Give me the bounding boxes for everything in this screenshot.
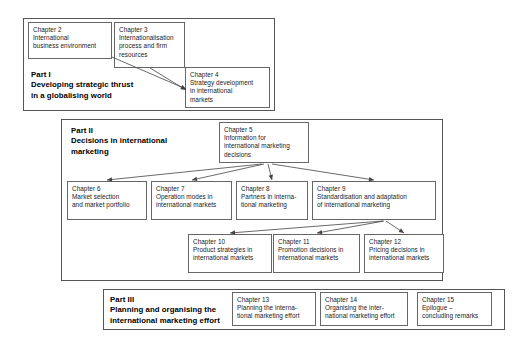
part-label-part-3: Part III Planning and organising the int… xyxy=(110,295,220,326)
chapter-box-chapter-15[interactable]: Chapter 15 Epilogue – concluding remarks xyxy=(417,292,492,326)
chapter-title-chapter-8: Partners in interna- tional marketing xyxy=(241,193,304,209)
chapter-number-chapter-2: Chapter 2 xyxy=(33,26,108,34)
chapter-box-chapter-13[interactable]: Chapter 13 Planning the interna- tional … xyxy=(232,292,316,326)
chapter-number-chapter-3: Chapter 3 xyxy=(119,26,181,34)
chapter-title-chapter-14: Organising the inter- national marketing… xyxy=(325,304,404,320)
chapter-title-chapter-6: Market selection and market portfolio xyxy=(72,193,143,209)
chapter-box-chapter-6[interactable]: Chapter 6 Market selection and market po… xyxy=(67,181,147,220)
chapter-box-chapter-4[interactable]: Chapter 4 Strategy development in intern… xyxy=(185,67,270,108)
chapter-number-chapter-5: Chapter 5 xyxy=(224,126,305,134)
chapter-title-chapter-9: Standardisation and adaptation of intern… xyxy=(317,193,432,209)
chapter-box-chapter-9[interactable]: Chapter 9 Standardisation and adaptation… xyxy=(312,181,436,220)
chapter-title-chapter-11: Promotion decisions in international mar… xyxy=(278,246,356,262)
chapter-title-chapter-7: Operation modes in international markets xyxy=(156,193,228,209)
chapter-number-chapter-9: Chapter 9 xyxy=(317,185,432,193)
chapter-title-chapter-13: Planning the interna- tional marketing e… xyxy=(237,304,312,320)
chapter-number-chapter-15: Chapter 15 xyxy=(422,296,488,304)
chapter-number-chapter-14: Chapter 14 xyxy=(325,296,404,304)
chapter-number-chapter-8: Chapter 8 xyxy=(241,185,304,193)
chapter-number-chapter-12: Chapter 12 xyxy=(369,238,440,246)
chapter-number-chapter-6: Chapter 6 xyxy=(72,185,143,193)
chapter-box-chapter-14[interactable]: Chapter 14 Organising the inter- nationa… xyxy=(320,292,408,326)
chapter-title-chapter-5: Information for international marketing … xyxy=(224,134,305,159)
chapter-box-chapter-11[interactable]: Chapter 11 Promotion decisions in intern… xyxy=(273,234,360,273)
chapter-number-chapter-11: Chapter 11 xyxy=(278,238,356,246)
chapter-box-chapter-7[interactable]: Chapter 7 Operation modes in internation… xyxy=(151,181,232,220)
chapter-number-chapter-10: Chapter 10 xyxy=(193,238,268,246)
part-label-part-1: Part I Developing strategic thrust in a … xyxy=(31,70,133,101)
chapter-box-chapter-5[interactable]: Chapter 5 Information for international … xyxy=(219,122,309,163)
chapter-box-chapter-8[interactable]: Chapter 8 Partners in interna- tional ma… xyxy=(236,181,308,220)
chapter-title-chapter-4: Strategy development in international ma… xyxy=(190,79,266,104)
chapter-title-chapter-3: Internationalisation process and firm re… xyxy=(119,34,181,59)
chapter-box-chapter-2[interactable]: Chapter 2 International business environ… xyxy=(28,22,112,59)
chapter-title-chapter-12: Pricing decisions in international marke… xyxy=(369,246,440,262)
chapter-title-chapter-2: International business environment xyxy=(33,34,108,50)
chapter-box-chapter-12[interactable]: Chapter 12 Pricing decisions in internat… xyxy=(364,234,444,273)
chapter-number-chapter-4: Chapter 4 xyxy=(190,71,266,79)
book-structure-diagram: Part I Developing strategic thrust in a … xyxy=(0,0,518,346)
chapter-box-chapter-3[interactable]: Chapter 3 Internationalisation process a… xyxy=(114,22,185,68)
chapter-number-chapter-13: Chapter 13 xyxy=(237,296,312,304)
part-label-part-2: Part II Decisions in international marke… xyxy=(71,126,167,157)
chapter-title-chapter-10: Product strategies in international mark… xyxy=(193,246,268,262)
chapter-number-chapter-7: Chapter 7 xyxy=(156,185,228,193)
chapter-box-chapter-10[interactable]: Chapter 10 Product strategies in interna… xyxy=(188,234,272,273)
chapter-title-chapter-15: Epilogue – concluding remarks xyxy=(422,304,488,320)
